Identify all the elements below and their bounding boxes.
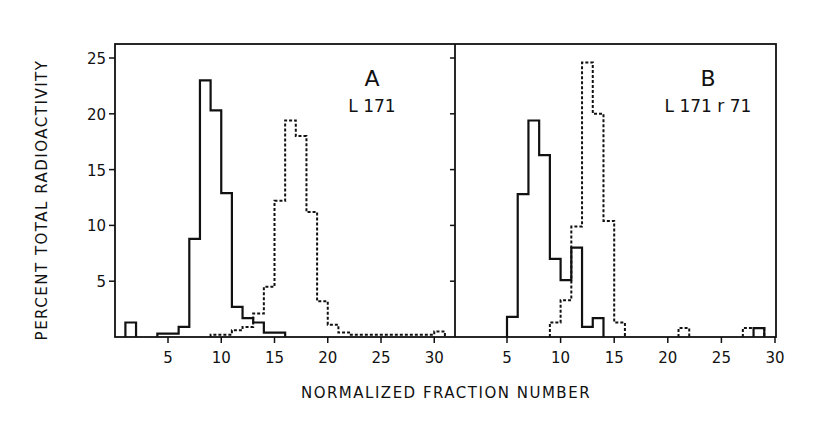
panel-a-solid-histogram <box>157 80 285 337</box>
y-tick-label: 20 <box>87 106 106 124</box>
plot-frame <box>115 44 776 337</box>
y-axis-label: PERCENT TOTAL RADIOACTIVITY <box>33 60 51 341</box>
panel-a-solid-histogram <box>125 322 136 337</box>
panel-a-letter: A <box>364 66 379 91</box>
x-tick-label: 20 <box>318 349 337 367</box>
x-tick-label: 25 <box>371 349 390 367</box>
panel-b-dashed-histogram <box>679 328 690 337</box>
y-tick-label: 5 <box>96 273 106 291</box>
panel-b-dashed-histogram <box>550 62 625 337</box>
panel-b-solid-histogram <box>507 120 603 337</box>
x-tick-label: 5 <box>163 349 173 367</box>
x-tick-label: 15 <box>605 349 624 367</box>
x-tick-label: 30 <box>425 349 444 367</box>
x-tick-label: 20 <box>658 349 677 367</box>
x-tick-label: 10 <box>212 349 231 367</box>
panel-b-subtitle: L 171 r 71 <box>665 96 752 116</box>
panel-b-solid-histogram <box>754 328 765 337</box>
x-tick-label: 15 <box>265 349 284 367</box>
x-axis-label: NORMALIZED FRACTION NUMBER <box>301 384 591 402</box>
panel-b-letter: B <box>700 66 715 91</box>
plot-border <box>115 44 776 337</box>
y-tick-label: 10 <box>87 217 106 235</box>
y-tick-label: 25 <box>87 50 106 68</box>
panel-a-dashed-histogram <box>211 120 445 337</box>
panel-a-subtitle: L 171 <box>348 96 395 116</box>
x-tick-label: 25 <box>712 349 731 367</box>
x-tick-label: 30 <box>765 349 784 367</box>
histogram-figure: 5101520255101520253051015202530 A L 171 … <box>0 0 820 428</box>
x-tick-label: 5 <box>502 349 512 367</box>
y-tick-label: 15 <box>87 162 106 180</box>
x-tick-label: 10 <box>551 349 570 367</box>
